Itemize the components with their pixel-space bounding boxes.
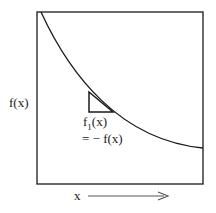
diagram-canvas bbox=[0, 0, 216, 213]
annotation-derivative: f1(x) bbox=[83, 115, 107, 132]
annotation-equation: = − f(x) bbox=[82, 132, 123, 145]
plot-frame bbox=[37, 12, 203, 184]
slope-triangle bbox=[89, 92, 113, 112]
decreasing-curve bbox=[41, 12, 203, 148]
x-axis-label: x bbox=[74, 189, 81, 202]
annotation-arg: (x) bbox=[92, 114, 107, 129]
y-axis-label: f(x) bbox=[9, 96, 29, 109]
